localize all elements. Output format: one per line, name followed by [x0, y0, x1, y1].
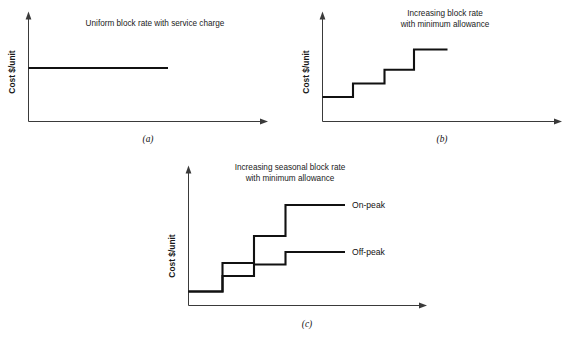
panel-b-title-line-2: with minimum allowance: [400, 20, 490, 29]
panel-c-title-line-2: with minimum allowance: [245, 174, 335, 183]
figure-canvas: Cost $/unit Uniform block rate with serv…: [0, 0, 581, 344]
panel-c-title-line-1: Increasing seasonal block rate: [235, 163, 346, 172]
panel-c-x-axis-arrow: [419, 303, 427, 309]
rate-structure-figure: Cost $/unit Uniform block rate with serv…: [0, 0, 581, 344]
panel-b-caption: (b): [437, 134, 448, 145]
panel-c-on-peak-label: On-peak: [352, 200, 386, 210]
panel-a-x-axis-arrow: [260, 119, 268, 125]
panel-a-title: Uniform block rate with service charge: [86, 19, 225, 28]
panel-c-caption: (c): [302, 319, 312, 330]
panel-c-y-axis-label: Cost $/unit: [167, 234, 177, 277]
panel-a-y-axis-label: Cost $/unit: [7, 50, 17, 93]
panel-b-increasing-block-rate-curve: [323, 50, 448, 98]
panel-c-y-axis-arrow: [186, 166, 192, 174]
panel-b-x-axis-arrow: [554, 119, 562, 125]
panel-b-title-line-1: Increasing block rate: [407, 9, 483, 18]
panel-b-y-axis-arrow: [320, 12, 326, 20]
panel-c: On-peak Off-peak Cost $/unit Increasing …: [167, 163, 427, 330]
panel-c-off-peak-label: Off-peak: [352, 247, 386, 257]
panel-a-caption: (a): [143, 134, 154, 145]
panel-c-on-peak-curve: [189, 205, 346, 292]
panel-c-off-peak-curve: [189, 252, 346, 292]
panel-b: Cost $/unit Increasing block rate with m…: [301, 9, 562, 145]
panel-b-y-axis-label: Cost $/unit: [301, 50, 311, 93]
panel-a-y-axis-arrow: [26, 12, 32, 20]
panel-a: Cost $/unit Uniform block rate with serv…: [7, 12, 268, 146]
